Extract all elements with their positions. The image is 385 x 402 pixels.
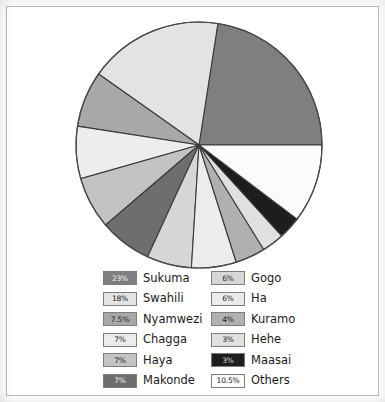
legend-percent-maasai: 3% [222,357,234,365]
legend-swatch-kuramo: 4% [211,312,245,326]
legend-percent-ha: 6% [222,295,234,303]
legend-swatch-sukuma: 23% [103,271,137,285]
legend-swatch-others: 10.5% [211,374,245,388]
pie-chart [69,19,329,271]
legend-item-gogo: 6%Gogo [211,268,311,289]
legend-label-ha: Ha [251,293,267,305]
legend-percent-hehe: 3% [222,336,234,344]
legend-item-nyamwezi: 7.5%Nyamwezi [103,309,203,330]
legend-percent-others: 10.5% [217,377,240,385]
legend-swatch-chagga: 7% [103,333,137,347]
legend-item-swahili: 18%Swahili [103,289,203,310]
figure-frame: 23%Sukuma18%Swahili7.5%Nyamwezi7%Chagga7… [6,6,379,396]
legend-label-makonde: Makonde [143,375,195,387]
legend-label-others: Others [251,375,290,387]
legend-swatch-maasai: 3% [211,353,245,367]
legend-item-haya: 7%Haya [103,350,203,371]
legend-percent-haya: 7% [114,357,126,365]
legend-swatch-nyamwezi: 7.5% [103,312,137,326]
legend-percent-chagga: 7% [114,336,126,344]
legend-swatch-ha: 6% [211,292,245,306]
legend-column-left: 23%Sukuma18%Swahili7.5%Nyamwezi7%Chagga7… [103,268,203,391]
legend-item-hehe: 3%Hehe [211,330,311,351]
legend-label-sukuma: Sukuma [143,273,189,285]
legend-swatch-hehe: 3% [211,333,245,347]
legend-swatch-swahili: 18% [103,292,137,306]
legend-swatch-gogo: 6% [211,271,245,285]
legend-percent-gogo: 6% [222,275,234,283]
legend-swatch-makonde: 7% [103,374,137,388]
legend-item-ha: 6%Ha [211,289,311,310]
legend-percent-kuramo: 4% [222,316,234,324]
legend-label-haya: Haya [143,355,173,367]
legend-column-right: 6%Gogo6%Ha4%Kuramo3%Hehe3%Maasai10.5%Oth… [211,268,311,391]
legend-label-hehe: Hehe [251,334,281,346]
legend-item-makonde: 7%Makonde [103,371,203,392]
legend-label-maasai: Maasai [251,355,291,367]
legend-item-chagga: 7%Chagga [103,330,203,351]
legend-label-chagga: Chagga [143,334,187,346]
legend-swatch-haya: 7% [103,353,137,367]
legend-percent-nyamwezi: 7.5% [111,316,129,324]
pie-slice-sukuma [199,23,322,145]
legend-item-others: 10.5%Others [211,371,311,392]
pie-chart-svg [69,19,329,271]
legend-item-sukuma: 23%Sukuma [103,268,203,289]
legend-label-kuramo: Kuramo [251,314,295,326]
legend-label-nyamwezi: Nyamwezi [143,314,202,326]
legend-percent-sukuma: 23% [112,275,128,283]
legend-item-kuramo: 4%Kuramo [211,309,311,330]
legend-label-gogo: Gogo [251,273,281,285]
scanned-page: 23%Sukuma18%Swahili7.5%Nyamwezi7%Chagga7… [0,0,385,402]
legend-percent-makonde: 7% [114,377,126,385]
legend-label-swahili: Swahili [143,293,184,305]
pie-slice-group [76,22,322,268]
legend-percent-swahili: 18% [112,295,128,303]
legend-item-maasai: 3%Maasai [211,350,311,371]
